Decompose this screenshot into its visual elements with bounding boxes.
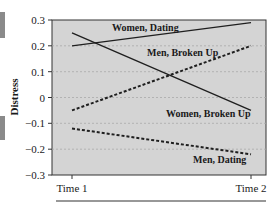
label-men-dating: Men, Dating [193, 154, 246, 165]
y-tick-label: 0.2 [31, 40, 45, 52]
y-tick-label: 0.3 [31, 14, 45, 26]
y-tick-label: −0.1 [25, 117, 45, 129]
line-chart: 0.3 0.2 0.1 0 −0.1 −0.2 −0.3 Distress Ti… [0, 0, 280, 205]
label-men-broken-up: Men, Broken Up [147, 47, 219, 58]
y-tick-label: −0.3 [25, 169, 45, 181]
label-women-dating: Women, Dating [112, 22, 179, 33]
y-axis-labels: 0.3 0.2 0.1 0 −0.1 −0.2 −0.3 [25, 14, 45, 181]
y-tick-label: −0.2 [25, 143, 45, 155]
x-tick-label: Time 1 [56, 182, 87, 194]
y-tick-label: 0.1 [31, 66, 45, 78]
y-tick-label: 0 [40, 92, 46, 104]
y-axis-title: Distress [8, 78, 20, 116]
label-women-broken-up: Women, Broken Up [166, 108, 251, 119]
x-tick-label: Time 2 [235, 182, 266, 194]
